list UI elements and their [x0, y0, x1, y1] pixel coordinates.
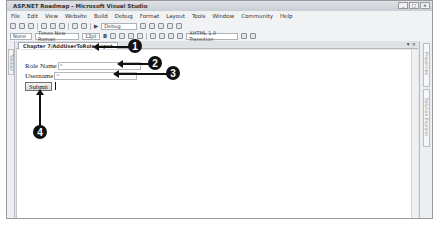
align-icon[interactable] [150, 33, 156, 39]
server-control-glyph-icon: ▫ [60, 62, 63, 67]
menu-file[interactable]: File [11, 13, 20, 19]
save-all-icon[interactable] [28, 23, 34, 29]
properties-icon[interactable] [158, 23, 164, 29]
window-title: ASP.NET Roadmap - Microsoft Visual Studi… [13, 3, 147, 9]
toolbar-separator [90, 23, 91, 30]
doctype-combo[interactable]: XHTML 1.0 Transition [186, 33, 238, 40]
menu-bar: File Edit View Website Build Debug Forma… [7, 11, 432, 21]
minimize-button[interactable]: _ [398, 2, 408, 9]
callout-arrow-3 [118, 73, 168, 75]
close-button[interactable]: × [420, 2, 430, 9]
menu-community[interactable]: Community [241, 13, 273, 19]
undo-icon[interactable] [72, 23, 78, 29]
vertical-scrollbar[interactable] [411, 50, 418, 218]
copy-icon[interactable] [50, 23, 56, 29]
work-area: Toolbox Chapter 7/AddUserToRole.aspx* ▾ … [7, 41, 432, 218]
text-caret [55, 82, 56, 90]
font-name-combo[interactable]: Times New Roman [35, 33, 79, 40]
new-project-icon[interactable] [10, 23, 16, 29]
outdent-icon[interactable] [177, 33, 183, 39]
menu-website[interactable]: Website [65, 13, 87, 19]
aspx-form: Role Name ▫ Username ▫ Submit [25, 61, 141, 91]
document-tab-strip: Chapter 7/AddUserToRole.aspx* ▾ × [16, 41, 418, 49]
callout-badge-3: 3 [166, 66, 180, 80]
menu-view[interactable]: View [45, 13, 58, 19]
callout-badge-4: 4 [33, 125, 47, 139]
title-bar: ASP.NET Roadmap - Microsoft Visual Studi… [7, 1, 432, 11]
underline-icon[interactable] [119, 33, 125, 39]
username-label: Username [25, 72, 53, 80]
font-size-combo[interactable]: 12pt [82, 33, 100, 40]
toolbox-icon[interactable] [167, 23, 173, 29]
redo-icon[interactable] [81, 23, 87, 29]
find-icon[interactable] [140, 23, 146, 29]
highlight-icon[interactable] [137, 33, 143, 39]
active-files-dropdown-icon[interactable]: ▾ [407, 41, 410, 47]
check-page-icon[interactable] [250, 33, 256, 39]
document-tab-controls: ▾ × [407, 41, 416, 47]
cut-icon[interactable] [41, 23, 47, 29]
check-accessibility-icon[interactable] [241, 33, 247, 39]
role-name-label: Role Name [25, 62, 57, 70]
solution-configuration-combo[interactable]: Debug [101, 23, 137, 30]
design-surface[interactable]: Role Name ▫ Username ▫ Submit [16, 50, 418, 218]
menu-help[interactable]: Help [280, 13, 293, 19]
solution-explorer-icon[interactable] [149, 23, 155, 29]
toolbar-separator [68, 23, 69, 30]
server-control-glyph-icon: ▫ [56, 72, 59, 77]
left-dock-strip: Toolbox [7, 41, 15, 218]
window-controls: _ □ × [398, 2, 430, 9]
menu-window[interactable]: Window [212, 13, 234, 19]
callout-arrow-4 [39, 94, 41, 127]
menu-tools[interactable]: Tools [192, 13, 206, 19]
numbered-list-icon[interactable] [159, 33, 165, 39]
toolbar-separator [37, 23, 38, 30]
formatting-toolbar: None Times New Roman 12pt B XHTML 1.0 Tr… [7, 31, 432, 41]
menu-format[interactable]: Format [140, 13, 159, 19]
callout-badge-2: 2 [148, 56, 162, 70]
solution-explorer-tab[interactable]: Solution Explorer [423, 89, 430, 147]
start-page-icon[interactable] [176, 23, 182, 29]
bold-button[interactable]: B [103, 33, 107, 39]
callout-arrow-1 [98, 46, 130, 48]
menu-debug[interactable]: Debug [115, 13, 133, 19]
callout-badge-1: 1 [128, 39, 142, 53]
maximize-button[interactable]: □ [409, 2, 419, 9]
menu-build[interactable]: Build [94, 13, 108, 19]
italic-icon[interactable] [110, 33, 116, 39]
toolbar-separator [146, 33, 147, 40]
right-dock-strip: Properties Solution Explorer [419, 41, 432, 218]
callout-arrow-2 [122, 63, 150, 65]
properties-tab[interactable]: Properties [423, 43, 430, 87]
start-debugging-icon[interactable]: ▶ [94, 23, 98, 29]
block-format-combo[interactable]: None [10, 33, 32, 40]
toolbox-tab[interactable]: Toolbox [8, 49, 14, 75]
close-document-icon[interactable]: × [411, 41, 416, 47]
bulleted-list-icon[interactable] [168, 33, 174, 39]
paste-icon[interactable] [59, 23, 65, 29]
visual-studio-window: ASP.NET Roadmap - Microsoft Visual Studi… [6, 0, 433, 219]
menu-edit[interactable]: Edit [27, 13, 38, 19]
menu-layout[interactable]: Layout [166, 13, 185, 19]
save-icon[interactable] [19, 23, 25, 29]
